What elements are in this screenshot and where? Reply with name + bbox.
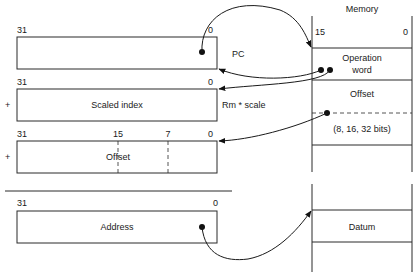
- operation-word-line-1: Operation: [342, 53, 382, 63]
- scaled-index-plus: +: [5, 100, 10, 110]
- offset-bit-7: 7: [165, 129, 170, 139]
- scaled-index-bit-31: 31: [17, 77, 27, 87]
- offset-bit-15: 15: [113, 129, 123, 139]
- memory-offset-size: (8, 16, 32 bits): [333, 124, 391, 134]
- pc-box: [17, 37, 217, 69]
- memory-bit-15: 15: [315, 27, 325, 37]
- pc-register: 31 0 PC: [17, 25, 245, 69]
- memory-column: Memory 15 0 Operation word Offset (8, 16…: [312, 4, 412, 272]
- arrow-address-to-datum: [202, 211, 311, 260]
- offset-plus: +: [5, 152, 10, 162]
- addressing-mode-diagram: 31 0 PC 31 0 + Scaled index Rm * scale 3…: [0, 0, 415, 276]
- offset-bit-0: 0: [208, 129, 213, 139]
- offset-bit-31: 31: [17, 129, 27, 139]
- offset-label: Offset: [106, 152, 130, 162]
- offset-register: 31 15 7 0 + Offset: [5, 129, 217, 173]
- pc-bit-31: 31: [17, 25, 27, 35]
- address-label: Address: [100, 222, 134, 232]
- scaled-index-side-label: Rm * scale: [222, 100, 266, 110]
- address-bit-31: 31: [17, 198, 27, 208]
- scaled-index-label: Scaled index: [91, 100, 143, 110]
- datum-label: Datum: [349, 222, 376, 232]
- scaled-index-bit-0: 0: [208, 77, 213, 87]
- memory-title: Memory: [346, 4, 379, 14]
- memory-bit-0: 0: [403, 27, 408, 37]
- scaled-index-register: 31 0 + Scaled index Rm * scale: [5, 77, 266, 121]
- arrow-operation-word-to-pc: [219, 69, 321, 78]
- arrow-memory-offset-to-offset: [219, 113, 327, 141]
- operation-word-line-2: word: [351, 65, 372, 75]
- address-bit-0: 0: [213, 198, 218, 208]
- pc-side-label: PC: [232, 49, 245, 59]
- arrow-pc-to-operation-word: [202, 6, 311, 52]
- address-register: 31 0 Address: [17, 198, 218, 243]
- memory-offset-label: Offset: [350, 89, 374, 99]
